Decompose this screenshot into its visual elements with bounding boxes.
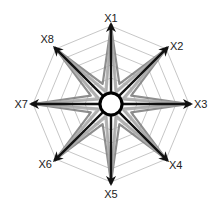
axis-label-x4: X4 — [169, 159, 182, 171]
axis-label-x1: X1 — [104, 12, 117, 24]
axis-label-x2: X2 — [170, 40, 183, 52]
axis-label-x7: X7 — [15, 98, 28, 110]
axis-label-x5: X5 — [104, 188, 117, 200]
radar-star-diagram: X1 X2 X3 X4 X5 X6 X7 X8 — [0, 0, 214, 209]
axis-arrow-x4 — [119, 112, 168, 161]
axis-label-x6: X6 — [39, 158, 52, 170]
axis-arrow-x8 — [54, 47, 103, 96]
axis-label-x3: X3 — [194, 98, 207, 110]
center-hub-circle — [100, 93, 122, 115]
axis-arrow-x2 — [119, 47, 168, 96]
axis-label-x8: X8 — [41, 33, 54, 45]
axis-arrow-x6 — [54, 112, 103, 161]
